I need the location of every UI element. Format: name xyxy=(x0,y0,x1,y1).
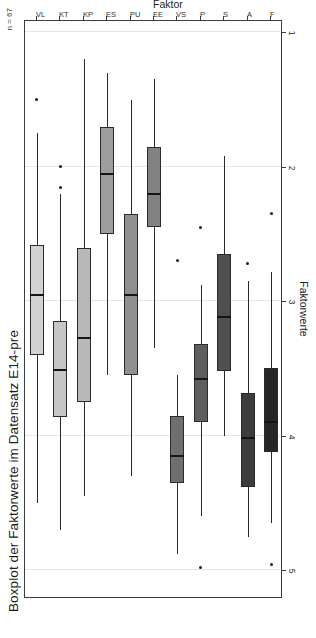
value-axis-tick-label: 3 xyxy=(287,300,297,305)
box xyxy=(30,245,44,355)
whisker-upper xyxy=(271,272,272,369)
box xyxy=(170,416,184,483)
whisker-lower xyxy=(271,452,272,523)
whisker-lower xyxy=(37,355,38,503)
page-title: Boxplot der Faktorwerte im Datensatz E14… xyxy=(6,0,21,638)
median-line xyxy=(124,294,138,296)
outlier-point xyxy=(270,563,273,566)
category-axis-tick-label: P xyxy=(200,10,205,19)
category-axis: VLKTKPESPUEEVSPSAF Faktor xyxy=(24,0,282,20)
box xyxy=(194,344,208,422)
box xyxy=(147,147,161,228)
median-line xyxy=(30,294,44,296)
whisker-upper xyxy=(177,375,178,415)
category-axis-tick-label: F xyxy=(270,10,275,19)
median-line xyxy=(194,378,208,380)
median-line xyxy=(264,421,278,423)
median-line xyxy=(241,437,255,439)
value-axis-tick-label: 4 xyxy=(287,434,297,439)
value-axis-tick xyxy=(282,570,286,571)
median-line xyxy=(53,369,67,371)
value-axis-tick xyxy=(282,32,286,33)
outlier-point xyxy=(270,212,273,215)
whisker-lower xyxy=(131,375,132,476)
whisker-upper xyxy=(60,194,61,322)
category-axis-tick-label: S xyxy=(223,10,228,19)
category-axis-tick-label: PU xyxy=(130,10,140,19)
category-axis-tick-label: EE xyxy=(153,10,163,19)
median-line xyxy=(217,316,231,318)
gridline xyxy=(25,569,281,570)
box xyxy=(217,254,231,371)
value-axis-title: Faktorwerte xyxy=(298,20,310,598)
box xyxy=(100,127,114,235)
plot-area xyxy=(24,20,282,598)
whisker-lower xyxy=(107,234,108,375)
boxplot-figure: Boxplot der Faktorwerte im Datensatz E14… xyxy=(0,0,316,638)
outlier-point xyxy=(176,259,179,262)
whisker-upper xyxy=(84,59,85,247)
whisker-lower xyxy=(201,422,202,516)
gridline xyxy=(25,31,281,32)
whisker-upper xyxy=(201,285,202,344)
whisker-lower xyxy=(84,402,85,496)
box xyxy=(77,248,91,403)
gridline xyxy=(25,300,281,301)
whisker-lower xyxy=(177,483,178,554)
median-line xyxy=(147,193,161,195)
category-axis-title: Faktor xyxy=(153,0,183,10)
value-axis-tick-label: 2 xyxy=(287,166,297,171)
value-axis-tick xyxy=(282,167,286,168)
whisker-upper xyxy=(131,100,132,214)
value-axis-tick-label: 1 xyxy=(287,31,297,36)
value-axis: 54321 Faktorwerte xyxy=(282,20,316,598)
outlier-point xyxy=(246,262,249,265)
median-line xyxy=(100,173,114,175)
value-axis-tick xyxy=(282,301,286,302)
value-axis-tick-label: 5 xyxy=(287,569,297,574)
category-axis-tick-label: A xyxy=(247,10,252,19)
chart-viewport: Boxplot der Faktorwerte im Datensatz E14… xyxy=(0,0,316,638)
category-axis-tick-label: VL xyxy=(36,10,45,19)
whisker-lower xyxy=(248,487,249,537)
whisker-lower xyxy=(224,371,225,436)
whisker-upper xyxy=(107,73,108,127)
box xyxy=(241,393,255,487)
median-line xyxy=(170,455,184,457)
whisker-lower xyxy=(154,227,155,348)
category-axis-tick-label: KP xyxy=(83,10,93,19)
whisker-upper xyxy=(154,80,155,147)
whisker-upper xyxy=(224,156,225,254)
sample-size-annotation: n = 67 xyxy=(5,8,14,30)
whisker-lower xyxy=(60,417,61,530)
value-axis-tick xyxy=(282,436,286,437)
outlier-point xyxy=(59,165,62,168)
whisker-upper xyxy=(248,281,249,393)
outlier-point xyxy=(59,186,62,189)
category-axis-tick-label: KT xyxy=(59,10,69,19)
category-axis-tick-label: VS xyxy=(176,10,186,19)
category-axis-tick-label: ES xyxy=(106,10,116,19)
outlier-point xyxy=(199,226,202,229)
box xyxy=(264,369,278,452)
median-line xyxy=(77,337,91,339)
whisker-upper xyxy=(37,133,38,245)
outlier-point xyxy=(35,98,38,101)
